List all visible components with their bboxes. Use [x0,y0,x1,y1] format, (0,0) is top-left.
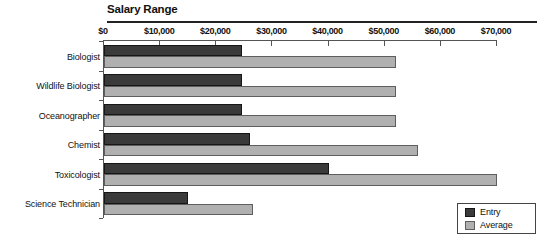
bar-average-wildlife-biologist [104,86,396,98]
category-label: Wildlife Biologist [0,81,100,91]
x-axis-tick [440,40,441,46]
x-axis-tick [328,40,329,46]
chart-title: Salary Range [107,3,177,15]
bar-entry-wildlife-biologist [104,74,242,86]
legend-label: Average [480,220,513,230]
salary-range-figure: Salary Range $0$10,000$20,000$30,000$40,… [0,0,540,237]
bar-average-chemist [104,145,418,157]
x-axis-tick-label: $70,000 [481,26,511,36]
y-axis-tick [99,130,103,131]
legend-swatch-entry [465,208,475,217]
bar-entry-oceanographer [104,104,242,116]
y-axis-tick [99,189,103,190]
x-axis-tick [271,40,272,46]
legend-entry-entry: Entry [465,207,535,218]
y-axis-tick [99,41,103,42]
bar-average-toxicologist [104,174,497,186]
y-axis-tick [99,218,103,219]
bar-average-science-technician [104,204,253,216]
x-axis-tick [384,40,385,46]
bar-entry-chemist [104,133,250,145]
bar-entry-biologist [104,45,242,57]
category-label: Science Technician [0,199,100,209]
category-label: Biologist [0,52,100,62]
x-axis-tick [496,40,497,46]
x-axis-tick-label: $30,000 [256,26,286,36]
y-axis-tick [99,159,103,160]
legend-label: Entry [480,207,501,217]
category-label: Chemist [0,140,100,150]
legend-entry-average: Average [465,220,535,231]
x-axis-tick-label: $60,000 [425,26,455,36]
bar-entry-toxicologist [104,163,329,175]
bar-average-oceanographer [104,115,396,127]
x-axis-line [103,40,496,41]
legend-swatch-average [465,221,475,230]
bar-average-biologist [104,56,396,68]
y-axis-tick [99,71,103,72]
x-axis-tick-label: $0 [98,26,107,36]
legend: EntryAverage [457,203,536,234]
x-axis-tick-label: $10,000 [144,26,174,36]
x-axis-tick-label: $40,000 [312,26,342,36]
bar-entry-science-technician [104,192,188,204]
title-rule [107,21,537,23]
y-axis-tick [99,100,103,101]
category-label: Toxicologist [0,170,100,180]
x-axis-tick-label: $20,000 [200,26,230,36]
category-label: Oceanographer [0,111,100,121]
x-axis-tick-label: $50,000 [368,26,398,36]
